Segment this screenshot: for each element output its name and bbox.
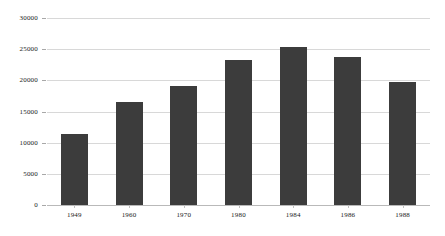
x-axis-tick — [239, 205, 240, 208]
bar[interactable] — [116, 102, 143, 205]
x-axis-tick — [74, 205, 75, 208]
y-axis-tick — [42, 205, 46, 206]
x-axis-label: 1980 — [231, 211, 246, 219]
y-axis-label: 15000 — [20, 108, 39, 116]
x-axis-tick — [348, 205, 349, 208]
y-axis-label: 20000 — [20, 76, 39, 84]
bar[interactable] — [61, 134, 88, 205]
x-axis-label: 1970 — [176, 211, 191, 219]
x-axis-label: 1988 — [395, 211, 410, 219]
bar[interactable] — [389, 82, 416, 205]
gridline — [47, 18, 430, 19]
y-axis-tick — [42, 49, 46, 50]
y-axis-tick — [42, 112, 46, 113]
y-axis-label: 0 — [34, 201, 38, 209]
x-axis-tick — [184, 205, 185, 208]
y-axis-label: 5000 — [23, 170, 38, 178]
x-axis-label: 1960 — [122, 211, 137, 219]
y-axis-label: 30000 — [20, 14, 39, 22]
gridline — [47, 49, 430, 50]
y-axis-tick — [42, 143, 46, 144]
x-axis-label: 1949 — [67, 211, 82, 219]
y-axis-tick — [42, 18, 46, 19]
bar[interactable] — [280, 47, 307, 205]
x-axis-tick — [403, 205, 404, 208]
y-axis-tick — [42, 174, 46, 175]
x-axis-tick — [129, 205, 130, 208]
x-axis-label: 1984 — [286, 211, 301, 219]
x-axis-label: 1986 — [341, 211, 356, 219]
bar[interactable] — [225, 60, 252, 205]
bar[interactable] — [334, 57, 361, 205]
plot-area: 050001000015000200002500030000 — [47, 18, 430, 205]
x-axis-tick — [293, 205, 294, 208]
y-axis-tick — [42, 80, 46, 81]
bar[interactable] — [170, 86, 197, 205]
y-axis-label: 10000 — [20, 139, 39, 147]
bar-chart: 050001000015000200002500030000 194919601… — [0, 0, 445, 236]
y-axis-label: 25000 — [20, 45, 39, 53]
